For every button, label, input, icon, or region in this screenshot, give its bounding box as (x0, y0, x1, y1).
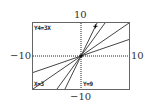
ymax-label: 10 (74, 9, 87, 20)
trace-cursor (93, 24, 97, 28)
xmax-label: 10 (131, 50, 144, 61)
equation-label: Y4=3X (34, 24, 51, 31)
origin-point (79, 54, 83, 58)
y-readout: Y=9 (83, 80, 93, 87)
x-readout: X=3 (34, 80, 44, 87)
plot-area (33, 23, 129, 89)
xmin-label: −10 (10, 50, 31, 61)
ymin-label: −10 (70, 91, 91, 102)
calculator-screen: Y4=3X X=3 Y=9 (32, 22, 130, 90)
